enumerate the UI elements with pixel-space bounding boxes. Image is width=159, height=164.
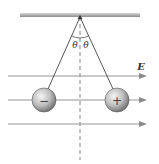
left-charge-sign: − — [39, 94, 49, 108]
right-string — [80, 17, 113, 89]
right-charge-sign: + — [112, 94, 122, 108]
field-label: E — [136, 61, 145, 72]
arrow-head-icon — [139, 121, 147, 127]
left-string — [48, 17, 80, 89]
angle-label-left: θ — [72, 40, 78, 50]
angle-arc — [72, 36, 89, 38]
arrow-head-icon — [139, 97, 147, 103]
arrow-head-icon — [139, 73, 147, 79]
pendulum-diagram: − + θ θ E — [0, 0, 159, 164]
angle-label-right: θ — [83, 40, 89, 50]
